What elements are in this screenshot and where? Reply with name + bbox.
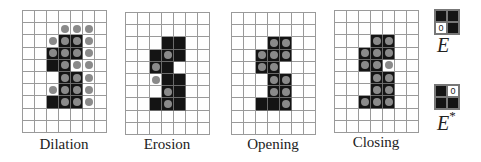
grid-cell [138,62,150,74]
grid-cell [268,13,280,25]
marker-dot-icon [270,63,278,71]
grid-cell [347,109,359,121]
grid-cell [383,60,395,72]
grid-cell [138,13,150,25]
grid-cell [150,13,162,25]
grid-cell [335,109,347,121]
grid-cell [383,84,395,96]
grid-cell [47,35,59,47]
grid-cell [383,23,395,35]
grid-cell [383,96,395,108]
grid-cell [198,123,210,135]
grid-cell [335,11,347,23]
grid-cell [59,109,71,121]
grid-cell [23,72,35,84]
grid-cell [395,11,407,23]
grid-cell [244,74,256,86]
grid-cell [186,74,198,86]
grid-cell [59,23,71,35]
grid-cell [186,86,198,98]
grid-cell [268,111,280,123]
grid-cell [186,62,198,74]
marker-dot-icon [385,86,393,94]
grid-cell [47,60,59,72]
marker-dot-icon [282,39,290,47]
marker-dot-icon [385,98,393,106]
grid-cell [256,123,268,135]
grid-cell [35,96,47,108]
grid-cell [371,121,383,133]
grid-cell [304,123,316,135]
grid-cell [150,25,162,37]
grid-cell [23,48,35,60]
grid-cell [95,96,107,108]
marker-dot-icon [152,63,160,71]
grid-cell [71,35,83,47]
grid-cell [198,13,210,25]
kernel-origin-cell: 0 [435,22,447,34]
marker-dot-icon [361,61,369,69]
marker-dot-icon [61,74,69,82]
grid-cell [347,121,359,133]
marker-dot-icon [73,98,81,106]
grid-cell [407,96,419,108]
grid-cell [150,86,162,98]
grid-cell [280,123,292,135]
grid-cell [407,121,419,133]
grid-cell [383,11,395,23]
grid-cell [335,121,347,133]
grid-cell [232,25,244,37]
grid-cell [83,84,95,96]
grid-cell [47,96,59,108]
grid-cell [304,111,316,123]
grid-cell [347,60,359,72]
marker-dot-icon [258,51,266,59]
marker-dot-icon [61,61,69,69]
grid-cell [35,48,47,60]
grid-cell [174,123,186,135]
grid-cell [162,50,174,62]
grid-cell [59,60,71,72]
marker-dot-icon [49,37,57,45]
grid-cell [83,109,95,121]
grid-cell [174,50,186,62]
grid-cell [126,98,138,110]
grid-cell [150,37,162,49]
grid-cell [35,109,47,121]
grid-cell [162,111,174,123]
dilation-grid [22,10,107,133]
grid-cell [95,109,107,121]
grid-cell [95,35,107,47]
grid-cell [95,72,107,84]
grid-cell [150,123,162,135]
marker-dot-icon [73,86,81,94]
grid-cell [371,109,383,121]
marker-dot-icon [385,49,393,57]
dilation-label: Dilation [9,136,119,153]
marker-dot-icon [270,76,278,84]
grid-cell [371,72,383,84]
grid-cell [280,25,292,37]
grid-cell [150,98,162,110]
grid-cell [162,37,174,49]
grid-cell [59,96,71,108]
marker-dot-icon [85,86,93,94]
grid-cell [335,60,347,72]
marker-dot-icon [61,25,69,33]
grid-cell [359,48,371,60]
grid-cell [71,121,83,133]
grid-cell [162,62,174,74]
grid-cell [71,84,83,96]
grid-cell [280,98,292,110]
grid-cell [359,109,371,121]
grid-cell [335,35,347,47]
grid-cell [304,25,316,37]
grid-cell [359,11,371,23]
grid-cell [292,62,304,74]
grid-cell [347,96,359,108]
grid-cell [47,84,59,96]
grid-cell [256,62,268,74]
grid-cell [232,74,244,86]
marker-dot-icon [164,88,172,96]
grid-cell [395,121,407,133]
